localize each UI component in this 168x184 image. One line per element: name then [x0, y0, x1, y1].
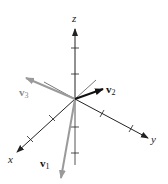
- y-axis-label: y: [150, 133, 156, 145]
- y-tick: [100, 110, 104, 117]
- v3-label: v3: [19, 86, 29, 100]
- vector-v2: [75, 89, 103, 99]
- y-axis: [75, 99, 148, 138]
- v2-label: v2: [106, 83, 116, 97]
- x-axis-label: x: [7, 153, 13, 165]
- z-axis-label: z: [71, 12, 77, 24]
- vector-v1: [61, 99, 75, 178]
- v1-label: v1: [40, 157, 50, 171]
- vector-diagram: z x y v1 v2 v3: [0, 0, 168, 184]
- vector-v3: [26, 78, 75, 99]
- x-tick: [27, 136, 33, 142]
